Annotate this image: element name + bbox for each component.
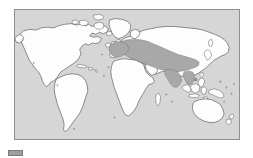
islet-galapagos xyxy=(57,85,58,86)
islet-aleutian xyxy=(22,40,23,41)
islet-hawaii xyxy=(33,62,34,63)
islet-azores xyxy=(102,54,103,55)
islet-pacific-4 xyxy=(224,101,225,102)
islet-indian-2 xyxy=(171,101,172,102)
islet-pacific-5 xyxy=(233,83,234,84)
islet-pacific-2 xyxy=(226,87,227,88)
islet-hainan xyxy=(194,78,197,81)
islet-falklands xyxy=(74,128,75,129)
legend-range-swatch xyxy=(8,150,23,156)
islet-indian-1 xyxy=(166,94,167,95)
islet-pacific-1 xyxy=(220,81,221,83)
map-panel xyxy=(14,9,240,140)
figure-page xyxy=(0,0,253,158)
islet-south-atlantic xyxy=(114,117,115,118)
islet-atlantic-1 xyxy=(103,75,104,76)
islet-pacific-3 xyxy=(231,93,232,94)
islet-lesser-antilles xyxy=(95,69,97,72)
islet-atlantic-2 xyxy=(108,67,109,68)
islet-baffin-island xyxy=(94,22,104,29)
world-map xyxy=(15,10,239,139)
islet-sakhalin xyxy=(209,39,213,46)
